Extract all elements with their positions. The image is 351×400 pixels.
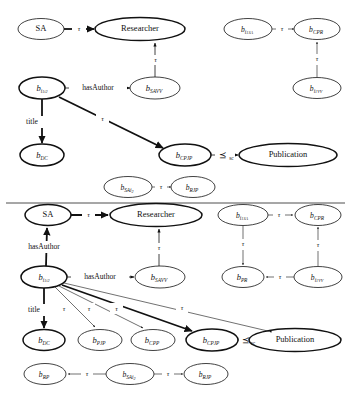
node-b-cpr[interactable]: bCPR: [295, 205, 341, 226]
edge-label-hasauthor: hasAuthor: [82, 83, 114, 92]
upper-graph-panel: τ τ hasAuthor title τ: [18, 18, 341, 198]
edge-bi1i2-to-bcpp: [59, 286, 143, 328]
node-b-rjp[interactable]: bRJP: [171, 177, 215, 198]
node-b-cpjp[interactable]: bCPJP: [186, 329, 238, 351]
node-label: bCPJP: [203, 335, 220, 346]
upper-nodes: SA Researcher bi1i2: [18, 18, 341, 198]
node-b-rp[interactable]: bRP: [24, 364, 66, 385]
edge-label-title: title: [28, 305, 40, 314]
node-b-pr[interactable]: bPR: [222, 267, 264, 288]
edge-label-precedes: ⪯: [219, 150, 227, 160]
node-b-cpp[interactable]: bCPP: [131, 330, 175, 351]
node-b-i1vv[interactable]: bi1VV: [293, 78, 341, 99]
node-label: bi1SA: [236, 211, 248, 221]
edge-label-hasauthor: hasAuthor: [28, 242, 60, 251]
node-label: bRP: [39, 370, 50, 380]
edge-bi1i2-to-publication: [64, 283, 272, 332]
graph-canvas: τ τ hasAuthor title τ: [0, 0, 351, 400]
node-b-savv[interactable]: bSAVV: [130, 77, 180, 99]
edge-label-precedes-sub: sc: [229, 155, 234, 161]
node-label: Researcher: [137, 209, 175, 219]
node-label: bi1VV: [310, 84, 323, 94]
node-label: bSAVV: [151, 272, 168, 283]
node-label: bPJP: [92, 335, 106, 346]
node-b-rjp[interactable]: bRJP: [184, 364, 228, 385]
node-label: bRJP: [199, 370, 212, 380]
node-b-i1i2[interactable]: bi1i2: [21, 266, 67, 288]
node-label: Researcher: [121, 23, 159, 33]
node-b-cpr[interactable]: bCPR: [294, 19, 340, 40]
diagram-root: τ τ hasAuthor title τ: [0, 0, 351, 400]
node-label: Publication: [269, 149, 308, 159]
edge-bi1i2-to-bcpjp: [59, 97, 163, 148]
node-b-i1sa[interactable]: bi1SA: [224, 19, 272, 40]
node-label: bSAi2: [120, 183, 133, 194]
node-label: bDC: [38, 335, 50, 346]
lower-edges: τ τ hasAuthor hasAuthor title: [15, 209, 324, 379]
edge-bi1i2-to-bcpjp: [62, 285, 192, 331]
node-label: bPR: [237, 272, 248, 283]
node-label: bCPP: [145, 335, 160, 346]
node-label: bRJP: [186, 183, 199, 193]
node-sa[interactable]: SA: [25, 205, 71, 226]
node-label: bSAVV: [146, 83, 163, 94]
edge-label-title: title: [26, 117, 38, 126]
node-label: bCPR: [309, 25, 324, 35]
node-publication[interactable]: Publication: [239, 144, 337, 167]
node-b-dc[interactable]: bDC: [20, 144, 64, 166]
node-b-i1vv[interactable]: bi1VV: [294, 267, 342, 288]
node-label: bCPJP: [176, 150, 193, 161]
node-label: bi1i2: [37, 83, 48, 94]
node-b-i1sa[interactable]: bi1SA: [218, 205, 268, 226]
node-label: SA: [43, 209, 55, 219]
node-label: bCPR: [310, 211, 325, 221]
node-b-dc[interactable]: bDC: [23, 330, 65, 351]
node-label: bi1i2: [39, 272, 50, 283]
node-b-sai2[interactable]: bSAi2: [104, 177, 152, 198]
node-label: SA: [36, 23, 48, 33]
node-sa[interactable]: SA: [18, 19, 64, 40]
node-b-savv[interactable]: bSAVV: [135, 266, 185, 288]
node-researcher[interactable]: Researcher: [95, 18, 185, 41]
node-label: bi1VV: [311, 273, 324, 283]
lower-graph-panel: τ τ hasAuthor hasAuthor title: [15, 204, 342, 385]
node-label: bi1SA: [241, 25, 253, 35]
lower-nodes: SA Researcher bi1SA: [21, 204, 342, 385]
edge-label-hasauthor: hasAuthor: [84, 272, 116, 281]
node-publication[interactable]: Publication: [249, 329, 341, 352]
node-b-sai2[interactable]: bSAi2: [106, 364, 154, 385]
node-label: bSAi2: [122, 370, 135, 381]
node-b-pjp[interactable]: bPJP: [78, 330, 122, 351]
node-label: bDC: [36, 150, 48, 161]
node-label: Publication: [276, 334, 315, 344]
node-researcher[interactable]: Researcher: [110, 204, 202, 227]
node-b-i1i2[interactable]: bi1i2: [19, 77, 65, 99]
node-b-cpjp[interactable]: bCPJP: [159, 144, 211, 166]
